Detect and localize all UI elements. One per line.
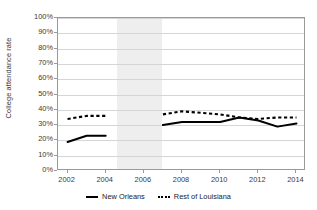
- x-tick-mark: [105, 170, 106, 173]
- x-tick-mark: [143, 170, 144, 173]
- chart-figure: College attendance rate 100%90%80%70%60%…: [0, 0, 317, 210]
- x-tick-mark: [219, 170, 220, 173]
- y-tick-label: 30%: [5, 120, 57, 128]
- series-line: [68, 116, 106, 119]
- x-tick-mark: [257, 170, 258, 173]
- y-tick-label: 60%: [5, 74, 57, 82]
- y-tick-mark: [54, 170, 57, 171]
- x-tick-label: 2014: [275, 175, 315, 184]
- x-tick-label: 2006: [123, 175, 163, 184]
- x-tick-mark: [181, 170, 182, 173]
- legend-item[interactable]: New Orleans: [86, 192, 145, 202]
- series-2: [68, 111, 297, 119]
- legend-swatch-solid-icon: [86, 194, 98, 200]
- x-tick-mark: [295, 170, 296, 173]
- x-tick-label: 2008: [161, 175, 201, 184]
- plot-area: [57, 17, 305, 170]
- y-tick-label: 40%: [5, 105, 57, 113]
- y-tick-label: 50%: [5, 90, 57, 98]
- legend-item[interactable]: Rest of Louisiana: [158, 192, 231, 202]
- series-line: [163, 111, 297, 119]
- x-tick-mark: [67, 170, 68, 173]
- legend-label: Rest of Louisiana: [174, 192, 231, 202]
- x-tick-label: 2002: [47, 175, 87, 184]
- x-tick-label: 2010: [199, 175, 239, 184]
- y-tick-label: 0%: [5, 166, 57, 174]
- y-tick-label: 100%: [5, 13, 57, 21]
- x-tick-label: 2004: [85, 175, 125, 184]
- y-tick-label: 80%: [5, 44, 57, 52]
- series-layer: [58, 18, 304, 169]
- series-line: [68, 136, 106, 142]
- y-tick-label: 10%: [5, 151, 57, 159]
- chart-legend: New OrleansRest of Louisiana: [0, 189, 317, 205]
- legend-label: New Orleans: [102, 192, 145, 202]
- y-tick-label: 90%: [5, 28, 57, 36]
- plot-inner: [58, 18, 304, 169]
- y-tick-label: 20%: [5, 135, 57, 143]
- legend-swatch-dashed-icon: [158, 194, 170, 200]
- y-tick-label: 70%: [5, 59, 57, 67]
- series-line: [163, 117, 297, 126]
- series-1: [68, 117, 297, 141]
- x-tick-label: 2012: [237, 175, 277, 184]
